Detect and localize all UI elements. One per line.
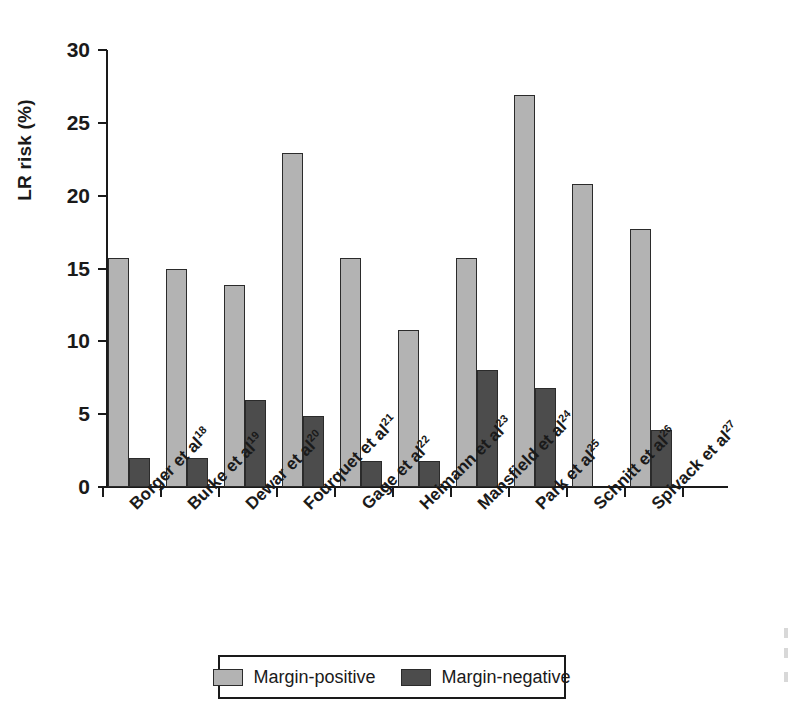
scan-artifact: [784, 672, 788, 682]
legend: Margin-positiveMargin-negative: [218, 655, 566, 699]
y-axis-tick: [98, 122, 107, 124]
y-axis-tick-label: 30: [44, 39, 90, 60]
y-axis-tick: [98, 340, 107, 342]
bar-margin-positive: [108, 258, 129, 487]
scan-artifact: [784, 628, 788, 638]
bars-layer: [108, 50, 728, 487]
y-axis-title: LR risk (%): [14, 60, 44, 240]
y-axis-tick-label: 15: [44, 258, 90, 279]
y-axis-tick: [98, 268, 107, 270]
legend-item-label: Margin-positive: [253, 667, 375, 688]
legend-item: Margin-positive: [213, 667, 375, 688]
y-axis-tick-label: 10: [44, 330, 90, 351]
dark-gray-swatch: [401, 669, 431, 686]
light-gray-swatch: [213, 669, 243, 686]
y-axis-tick: [98, 49, 107, 51]
legend-item-label: Margin-negative: [441, 667, 570, 688]
x-axis-tick: [102, 487, 104, 497]
bar-margin-positive: [514, 95, 535, 487]
scan-artifact: [784, 648, 788, 658]
figure-container: LR risk (%) 051015202530 Borger et al18B…: [0, 0, 790, 726]
legend-item: Margin-negative: [401, 667, 570, 688]
y-axis-tick-label: 20: [44, 185, 90, 206]
y-axis-tick-label: 0: [44, 476, 90, 497]
y-axis-tick-label: 5: [44, 403, 90, 424]
y-axis-tick: [98, 195, 107, 197]
bar-margin-positive: [282, 153, 303, 487]
y-axis-tick: [98, 413, 107, 415]
y-axis-tick-label: 25: [44, 112, 90, 133]
